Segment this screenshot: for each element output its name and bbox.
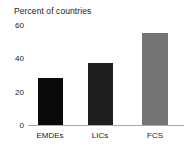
bar-lics <box>88 63 113 125</box>
bar-fcs <box>142 33 168 125</box>
x-axis-label-fcs: FCS <box>147 131 163 140</box>
bar-emdes <box>38 78 63 125</box>
bar-chart: Percent of countries 60 40 20 0 EMDEs LI… <box>0 0 188 148</box>
x-axis-label-lics: LICs <box>92 131 108 140</box>
x-axis-line <box>28 125 184 126</box>
bars-layer <box>0 0 188 125</box>
x-axis-label-emdes: EMDEs <box>36 131 63 140</box>
